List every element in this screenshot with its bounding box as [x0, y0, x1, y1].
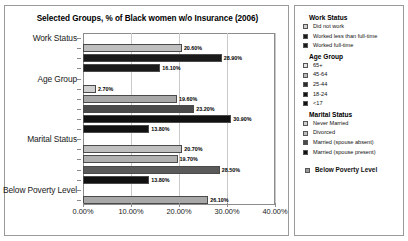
- legend-item[interactable]: Divorced: [303, 130, 403, 136]
- bar-value-label: 2.70%: [96, 86, 113, 92]
- category-tick: [77, 119, 81, 120]
- legend-group-title: Work Status: [309, 14, 403, 21]
- bar: [83, 95, 177, 103]
- bar-value-label: 20.70%: [182, 146, 202, 152]
- legend-group: Marital StatusNever MarriedDivorcedMarri…: [295, 111, 403, 155]
- legend-item-label: Married (spouse absent): [313, 140, 374, 146]
- category-tick: [77, 89, 81, 90]
- bar-value-label: 20.60%: [182, 45, 202, 51]
- legend-swatch-icon: [303, 73, 308, 78]
- legend-swatch-icon: [303, 34, 308, 39]
- category-tick: [77, 68, 81, 69]
- legend-footer-item[interactable]: Below Poverty Level: [305, 167, 403, 173]
- bar-value-label: 30.90%: [231, 116, 251, 122]
- bar-value-label: 23.20%: [194, 106, 214, 112]
- bar: [83, 196, 208, 204]
- legend-group-title: Age Group: [309, 53, 403, 60]
- bar-value-label: 28.90%: [222, 55, 242, 61]
- legend-swatch-icon: [305, 168, 310, 173]
- legend-item[interactable]: 18-24: [303, 92, 403, 98]
- legend-item[interactable]: Did not work: [303, 24, 403, 30]
- legend-content: Work StatusDid not workWorked less than …: [295, 6, 403, 174]
- bar: [83, 105, 194, 113]
- bar-value-label: 13.80%: [149, 126, 169, 132]
- legend-item[interactable]: 65+: [303, 63, 403, 69]
- bar-row: 13.80%: [83, 176, 275, 184]
- legend-swatch-icon: [303, 131, 308, 136]
- bar-value-label: 19.70%: [178, 156, 198, 162]
- x-tick-label: 30.00%: [214, 207, 239, 216]
- bar-row: 20.60%: [83, 44, 275, 52]
- legend-group: Work StatusDid not workWorked less than …: [295, 14, 403, 49]
- bar-value-label: 16.10%: [160, 65, 180, 71]
- category-tick: [77, 139, 81, 140]
- category-tick: [77, 38, 81, 39]
- category-label: Marital Status: [27, 134, 77, 144]
- legend-item-label: Divorced: [313, 130, 335, 136]
- bar-row: 19.60%: [83, 95, 275, 103]
- legend-item[interactable]: Never Married: [303, 121, 403, 127]
- category-tick: [77, 190, 81, 191]
- legend-swatch-icon: [303, 140, 308, 145]
- legend-swatch-icon: [303, 24, 308, 29]
- legend-item-label: 65+: [313, 63, 323, 69]
- gridline: [275, 33, 276, 205]
- legend-swatch-icon: [303, 101, 308, 106]
- category-tick: [77, 170, 81, 171]
- bar-row: 20.70%: [83, 145, 275, 153]
- bar-value-label: 19.60%: [177, 96, 197, 102]
- category-label: Age Group: [37, 74, 77, 84]
- bar: [83, 115, 231, 123]
- bar-row: 2.70%: [83, 85, 275, 93]
- legend-swatch-icon: [303, 63, 308, 68]
- bar-value-label: 13.80%: [149, 177, 169, 183]
- legend-item[interactable]: Worked full-time: [303, 43, 403, 49]
- bar: [83, 125, 149, 133]
- x-tick-label: 10.00%: [118, 207, 143, 216]
- category-tick: [77, 99, 81, 100]
- legend-group: Age Group65+45-6425-4418-24<17: [295, 53, 403, 107]
- category-tick: [77, 149, 81, 150]
- chart-title: Selected Groups, % of Black women w/o In…: [5, 14, 290, 23]
- legend-item-label: Married (spouse present): [313, 150, 376, 156]
- legend-item[interactable]: Married (spouse present): [303, 150, 403, 156]
- legend-item[interactable]: <17: [303, 101, 403, 107]
- bar-row: 30.90%: [83, 115, 275, 123]
- bar: [83, 44, 182, 52]
- legend-swatch-icon: [303, 43, 308, 48]
- value-axis: 0.00%10.00%20.00%30.00%40.00%: [83, 207, 275, 221]
- category-tick: [77, 48, 81, 49]
- legend-item[interactable]: 45-64: [303, 72, 403, 78]
- legend-item-label: 25-44: [313, 82, 327, 88]
- legend-item-label: Worked full-time: [313, 43, 353, 49]
- category-tick: [77, 109, 81, 110]
- chart-screenshot: Selected Groups, % of Black women w/o In…: [0, 0, 408, 241]
- legend-swatch-icon: [303, 121, 308, 126]
- x-tick-label: 40.00%: [262, 207, 287, 216]
- category-tick: [77, 129, 81, 130]
- legend-item[interactable]: Worked less than full-time: [303, 34, 403, 40]
- legend-item-label: 18-24: [313, 92, 327, 98]
- legend-item[interactable]: 25-44: [303, 82, 403, 88]
- bar-row: 19.70%: [83, 155, 275, 163]
- category-tick: [77, 58, 81, 59]
- category-tick: [77, 180, 81, 181]
- bar: [83, 166, 220, 174]
- plot-area-wrapper: 20.60%28.90%16.10%2.70%19.60%23.20%30.90…: [83, 33, 275, 205]
- bar: [83, 54, 222, 62]
- bar: [83, 155, 178, 163]
- bar: [83, 85, 96, 93]
- bar-value-label: 26.10%: [208, 197, 228, 203]
- bar-row: 23.20%: [83, 105, 275, 113]
- legend-item-label: Did not work: [313, 24, 344, 30]
- legend-item-label: Worked less than full-time: [313, 34, 377, 40]
- legend-item[interactable]: Married (spouse absent): [303, 140, 403, 146]
- bar-row: 13.80%: [83, 125, 275, 133]
- category-label: Below Poverty Level: [3, 185, 77, 195]
- legend-item-label: Never Married: [313, 121, 348, 127]
- bar: [83, 64, 160, 72]
- legend-swatch-icon: [303, 82, 308, 87]
- x-tick-label: 20.00%: [166, 207, 191, 216]
- bar-row: 28.90%: [83, 54, 275, 62]
- bar-value-label: 28.50%: [220, 167, 240, 173]
